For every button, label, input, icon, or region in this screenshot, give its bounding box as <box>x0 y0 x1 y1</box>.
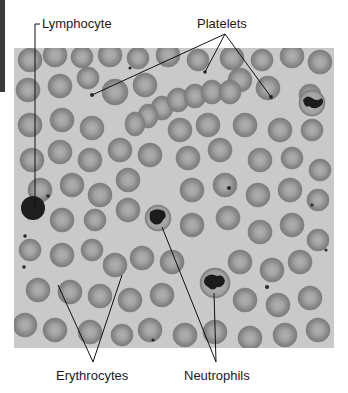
label-neutrophils: Neutrophils <box>184 368 250 383</box>
label-erythrocytes: Erythrocytes <box>56 368 128 383</box>
label-lymphocyte: Lymphocyte <box>42 16 112 31</box>
blood-smear-micrograph <box>14 48 334 348</box>
page-edge-bar <box>0 0 5 92</box>
label-platelets: Platelets <box>197 16 247 31</box>
blood-cells-illustration <box>14 48 334 348</box>
